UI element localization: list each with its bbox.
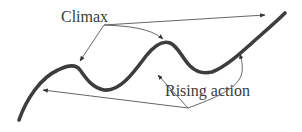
plot-structure-diagram: Climax Rising action [0,0,302,132]
climax-arrow-final-high [104,15,265,25]
climax-arrow-first-peak [80,25,104,61]
rising-action-arrow-third-rise [188,54,242,108]
climax-label: Climax [61,8,108,25]
climax-arrow-second-peak [104,25,163,39]
